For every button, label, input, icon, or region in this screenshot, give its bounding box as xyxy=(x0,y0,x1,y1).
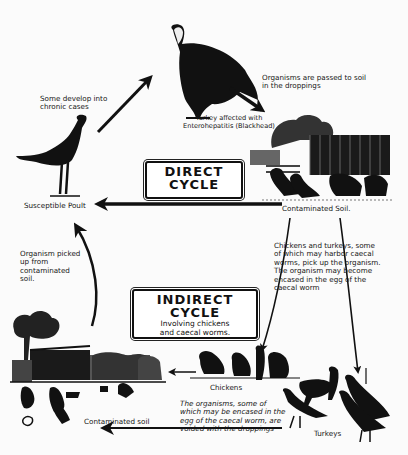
chickens-illustration xyxy=(190,346,300,381)
turkeys-label: Turkeys xyxy=(314,430,364,438)
indirect-cycle-box: INDIRECT CYCLE Involving chickens and ca… xyxy=(132,289,258,339)
organism-picked-up-label: Organism picked up from contaminated soi… xyxy=(20,250,90,284)
blackhead-life-cycle-diagram: Turkey affected with Enterohepatitis (Bl… xyxy=(0,0,408,455)
passed-to-soil-label: Organisms are passed to soil in the drop… xyxy=(262,74,402,91)
diagram-artwork xyxy=(0,0,408,455)
direct-cycle-title-line2: CYCLE xyxy=(147,178,241,191)
chronic-cases-label: Some develop into chronic cases xyxy=(40,95,130,112)
contaminated-soil-direct-label: Contaminated Soil. xyxy=(282,205,392,213)
indirect-cycle-subtitle: Involving chickens and caecal worms. xyxy=(134,319,256,337)
contaminated-soil-indirect-label: Contaminated soil xyxy=(84,418,174,426)
organisms-voided-label: The organisms, some of which may be enca… xyxy=(180,400,300,434)
affected-turkey-label: Turkey affected with Enterohepatitis (Bl… xyxy=(174,115,284,130)
direct-cycle-box: DIRECT CYCLE xyxy=(145,161,243,199)
chickens-label: Chickens xyxy=(210,384,270,392)
susceptible-poult-label: Susceptible Poult xyxy=(24,202,104,210)
chickens-turkeys-note: Chickens and turkeys, some of which may … xyxy=(274,242,404,292)
affected-turkey-illustration xyxy=(171,24,258,118)
susceptible-poult-illustration xyxy=(16,115,87,196)
indirect-cycle-title-line2: CYCLE xyxy=(134,306,256,319)
